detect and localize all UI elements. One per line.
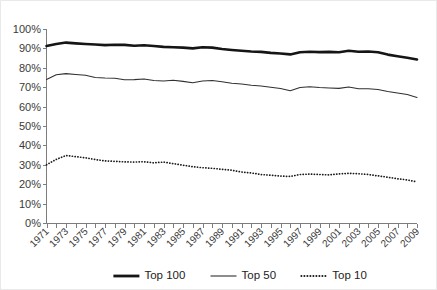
x-axis-tick-label: 1991: [222, 225, 246, 249]
x-axis-tick-label: 1999: [300, 225, 324, 249]
y-axis-tick-label: 60%: [19, 101, 41, 113]
x-axis-tick-label: 1981: [125, 225, 149, 249]
y-axis-tick-label: 90%: [19, 42, 41, 54]
legend-label-top-100: Top 100: [144, 269, 185, 281]
legend-label-top-10: Top 10: [332, 269, 367, 281]
y-axis-tick-label: 30%: [19, 159, 41, 171]
x-axis-tick-label: 1985: [164, 225, 188, 249]
x-axis-tick-label: 1975: [66, 225, 90, 249]
series-line-top-100: [47, 43, 418, 60]
x-axis-tick-label: 2007: [378, 225, 402, 249]
chart-svg: 0%10%20%30%40%50%60%70%80%90%100% 197119…: [1, 1, 437, 290]
x-axis-tick-label: 2009: [398, 225, 422, 249]
x-axis-tick-labels: 1971197319751977197919811983198519871989…: [27, 225, 421, 249]
y-axis-tick-label: 20%: [19, 178, 41, 190]
series-line-top-50: [47, 74, 418, 98]
y-axis-tick-label: 10%: [19, 198, 41, 210]
x-axis-tick-label: 1993: [242, 225, 266, 249]
x-axis-tick-label: 1997: [281, 225, 305, 249]
x-axis-tick-label: 1977: [86, 225, 110, 249]
x-axis-tick-label: 1983: [144, 225, 168, 249]
x-axis-tick-label: 2001: [320, 225, 344, 249]
chart-container: 0%10%20%30%40%50%60%70%80%90%100% 197119…: [0, 0, 437, 290]
chart-legend: Top 100Top 50Top 10: [113, 269, 366, 281]
y-axis-tick-label: 50%: [19, 120, 41, 132]
y-axis-tick-label: 100%: [13, 23, 41, 35]
x-axis-tick-label: 1989: [203, 225, 227, 249]
x-axis-tick-label: 1979: [105, 225, 129, 249]
y-axis-tick-label: 40%: [19, 139, 41, 151]
y-axis-tick-label: 70%: [19, 81, 41, 93]
legend-label-top-50: Top 50: [242, 269, 277, 281]
x-axis-tick-label: 1973: [47, 225, 71, 249]
y-axis-tick-labels: 0%10%20%30%40%50%60%70%80%90%100%: [13, 23, 41, 229]
y-axis-tick-label: 0%: [25, 217, 41, 229]
y-axis-tick-label: 80%: [19, 62, 41, 74]
x-axis-tick-marks: [48, 224, 418, 228]
x-axis-tick-label: 2005: [359, 225, 383, 249]
x-axis-tick-label: 1987: [183, 225, 207, 249]
series-line-top-10: [47, 155, 418, 181]
x-axis-tick-label: 2003: [339, 225, 363, 249]
x-axis-tick-label: 1995: [261, 225, 285, 249]
y-axis-tick-marks: [43, 30, 47, 224]
